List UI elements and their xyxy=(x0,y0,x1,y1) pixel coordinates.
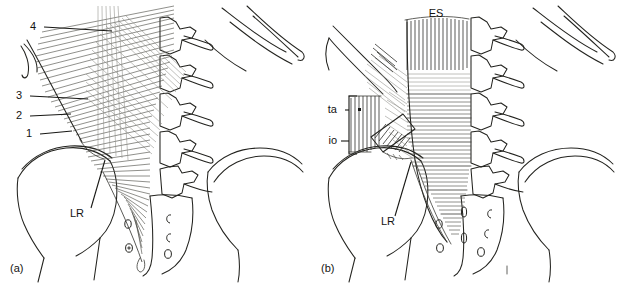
figure-root: 4 3 2 1 LR (a) xyxy=(0,0,622,284)
erector-spinae-fibres-b xyxy=(405,16,469,70)
label-ta: ta xyxy=(328,103,338,115)
label-io: io xyxy=(328,134,337,146)
leader-line-lr-a xyxy=(91,160,105,208)
right-ilium-b xyxy=(518,148,614,282)
fascia-shading-a xyxy=(98,6,128,160)
fascia-shading-b xyxy=(365,44,413,158)
leader-line-2 xyxy=(30,114,71,116)
twelfth-rib-a xyxy=(21,44,37,78)
ta-io-bracket xyxy=(349,96,357,154)
label-1: 1 xyxy=(26,127,32,139)
label-2: 2 xyxy=(16,109,22,121)
lateral-raphe-line-a xyxy=(27,40,104,159)
left-ilium-a xyxy=(17,146,117,282)
label-es: ES xyxy=(429,7,444,19)
label-4: 4 xyxy=(30,20,36,32)
panel-caption-a: (a) xyxy=(10,262,23,274)
leader-line-1 xyxy=(40,131,72,134)
rib-outlines-b xyxy=(516,6,615,71)
panel-caption-b: (b) xyxy=(321,262,334,274)
leader-line-4 xyxy=(44,27,112,31)
panel-a: 4 3 2 1 LR (a) xyxy=(0,0,311,284)
panel-b: ES ta io LR (b) xyxy=(311,0,622,284)
fascia-fibres-pale-a xyxy=(86,16,186,154)
sacral-foramina-a xyxy=(125,215,172,258)
lumbar-vertebrae-b xyxy=(471,17,524,198)
panel-b-labels: ES ta io LR xyxy=(328,7,444,227)
leader-line-lr-b xyxy=(395,162,411,216)
label-lr-b: LR xyxy=(381,215,395,227)
ta-marker-dot xyxy=(358,108,361,111)
fascia-fibres-upper-a xyxy=(36,6,174,139)
lumbar-vertebrae-a xyxy=(160,17,213,198)
label-3: 3 xyxy=(16,89,22,101)
rib-outlines-a xyxy=(205,6,304,71)
right-ilium-a xyxy=(207,148,303,282)
label-lr-a: LR xyxy=(70,207,84,219)
